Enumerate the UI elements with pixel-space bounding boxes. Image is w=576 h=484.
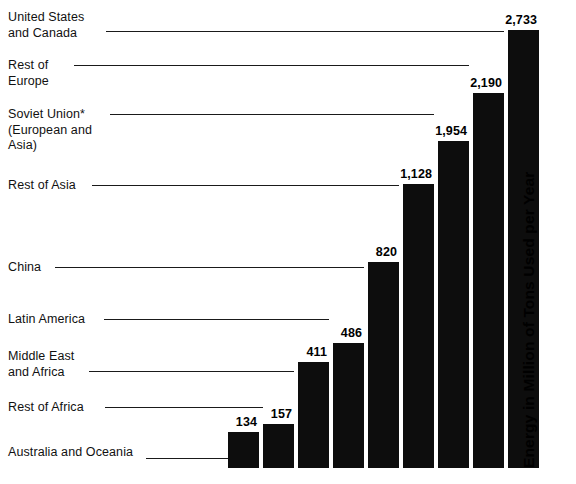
bar-china (368, 262, 399, 468)
category-label-australia-and-oceania: Australia and Oceania (8, 445, 133, 461)
leader-line-latin-america (104, 319, 329, 320)
category-label-united-states-and-canada: United States and Canada (8, 10, 84, 41)
leader-line-united-states-and-canada (106, 31, 504, 32)
value-label-rest-of-africa: 157 (234, 407, 292, 421)
leader-line-china (55, 267, 364, 268)
value-label-middle-east-and-africa: 411 (269, 345, 327, 359)
leader-line-australia-and-oceania (146, 458, 228, 459)
leader-line-rest-of-europe (74, 65, 469, 66)
bar-rest-of-asia (403, 184, 434, 468)
value-label-soviet-union: 1,954 (400, 124, 467, 138)
value-label-latin-america: 486 (304, 326, 362, 340)
bar-rest-of-europe (473, 93, 504, 468)
category-label-rest-of-europe: Rest of Europe (8, 58, 49, 89)
y-axis-title: Energy in Million of Tons Used per Year (520, 172, 538, 468)
leader-line-soviet-union (110, 114, 434, 115)
category-label-china: China (8, 260, 41, 276)
value-label-rest-of-europe: 2,190 (435, 76, 502, 90)
bar-chart: United States and Canada Rest of Europe … (0, 0, 576, 484)
category-label-soviet-union: Soviet Union* (European and Asia) (8, 107, 92, 154)
category-label-rest-of-africa: Rest of Africa (8, 400, 84, 416)
category-label-latin-america: Latin America (8, 312, 85, 328)
value-label-rest-of-asia: 1,128 (365, 167, 432, 181)
value-label-china: 820 (339, 245, 397, 259)
category-label-rest-of-asia: Rest of Asia (8, 178, 76, 194)
category-label-middle-east-and-africa: Middle East and Africa (8, 349, 74, 380)
bar-soviet-union (438, 141, 469, 468)
bar-middle-east-and-africa (298, 362, 329, 468)
bar-rest-of-africa (263, 424, 294, 468)
bar-latin-america (333, 343, 364, 468)
value-label-united-states-and-canada: 2,733 (470, 13, 537, 27)
leader-line-rest-of-asia (92, 185, 399, 186)
bar-australia-and-oceania (228, 432, 259, 468)
leader-line-middle-east-and-africa (89, 371, 294, 372)
